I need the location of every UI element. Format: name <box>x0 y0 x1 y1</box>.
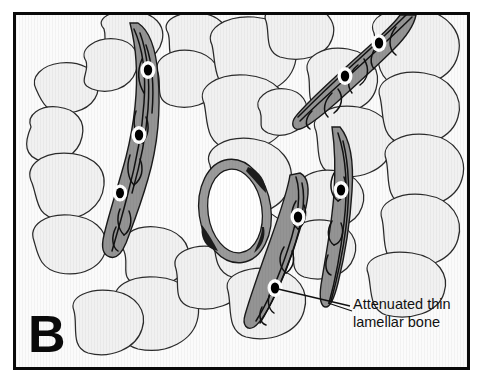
histology-figure-panel: B Attenuated thin lamellar bone <box>0 0 483 383</box>
callout-label-line1: Attenuated thin <box>353 296 451 314</box>
panel-letter: B <box>28 308 65 360</box>
osteocyte-lacunae <box>334 181 349 199</box>
marrow-cell <box>33 215 106 274</box>
osteocyte-nucleus <box>144 64 152 75</box>
osteocyte-nucleus <box>116 188 124 198</box>
callout-label-line2: lamellar bone <box>353 314 451 332</box>
osteocyte-nucleus <box>294 211 302 222</box>
osteocyte-nucleus <box>341 70 349 81</box>
callout-label: Attenuated thin lamellar bone <box>353 296 451 331</box>
marrow-cell <box>314 106 393 176</box>
osteocyte-nucleus <box>271 282 279 293</box>
osteocyte-nucleus <box>135 129 143 140</box>
osteocyte-nucleus <box>337 184 345 195</box>
osteocyte-nucleus <box>375 37 383 48</box>
